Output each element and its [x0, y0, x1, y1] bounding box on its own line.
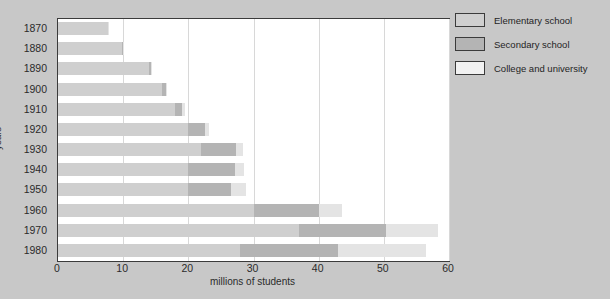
bar-row — [58, 241, 449, 261]
bar-segment-secondary-school — [254, 204, 319, 217]
x-tick-label: 60 — [442, 262, 454, 274]
bar-segment-secondary-school — [188, 163, 234, 176]
stacked-bar — [58, 123, 209, 136]
y-axis-tick-labels: 1870188018901900191019201930194019501960… — [0, 18, 52, 260]
bar-segment-elementary-school — [58, 62, 149, 75]
legend-label: Elementary school — [494, 15, 572, 26]
y-tick-label: 1890 — [24, 58, 47, 78]
stacked-bar — [58, 244, 426, 257]
bar-row — [58, 19, 449, 39]
bar-segment-elementary-school — [58, 224, 299, 237]
bar-row — [58, 201, 449, 221]
y-tick-label: 1870 — [24, 18, 47, 38]
bar-segment-elementary-school — [58, 143, 201, 156]
stacked-bar — [58, 22, 109, 35]
bar-segment-secondary-school — [299, 224, 386, 237]
stacked-bar — [58, 143, 243, 156]
y-tick-label: 1960 — [24, 200, 47, 220]
bar-segment-college-and-university — [319, 204, 342, 217]
bar-row — [58, 39, 449, 59]
x-tick-label: 0 — [54, 262, 60, 274]
bar-segment-elementary-school — [58, 22, 108, 35]
legend-swatch — [455, 37, 485, 51]
y-tick-label: 1910 — [24, 99, 47, 119]
bar-segment-college-and-university — [108, 22, 109, 35]
bar-segment-elementary-school — [58, 244, 240, 257]
bar-segment-secondary-school — [175, 103, 182, 116]
bars-layer — [58, 19, 449, 261]
bar-row — [58, 100, 449, 120]
bar-row — [58, 160, 449, 180]
x-tick-label: 20 — [181, 262, 193, 274]
stacked-bar — [58, 183, 246, 196]
bar-segment-secondary-school — [240, 244, 338, 257]
bar-segment-elementary-school — [58, 183, 188, 196]
y-tick-label: 1900 — [24, 79, 47, 99]
bar-segment-elementary-school — [58, 83, 162, 96]
legend-item[interactable]: Secondary school — [455, 32, 603, 56]
bar-row — [58, 59, 449, 79]
y-tick-label: 1940 — [24, 159, 47, 179]
x-axis-tick-labels: 0102030405060 — [57, 262, 448, 276]
bar-segment-elementary-school — [58, 163, 188, 176]
bar-segment-college-and-university — [205, 123, 209, 136]
y-tick-label: 1950 — [24, 179, 47, 199]
y-tick-label: 1880 — [24, 38, 47, 58]
bar-segment-elementary-school — [58, 123, 188, 136]
bar-row — [58, 120, 449, 140]
y-tick-label: 1970 — [24, 220, 47, 240]
bar-row — [58, 180, 449, 200]
y-tick-label: 1930 — [24, 139, 47, 159]
bar-segment-college-and-university — [151, 62, 152, 75]
x-tick-label: 40 — [312, 262, 324, 274]
bar-segment-college-and-university — [386, 224, 438, 237]
legend-item[interactable]: College and university — [455, 56, 603, 80]
plot-area — [57, 18, 450, 262]
bar-segment-elementary-school — [58, 103, 175, 116]
y-axis-title: years — [0, 127, 3, 150]
bar-segment-college-and-university — [338, 244, 426, 257]
legend-item[interactable]: Elementary school — [455, 8, 603, 32]
stacked-bar — [58, 83, 167, 96]
bar-row — [58, 140, 449, 160]
bar-segment-college-and-university — [236, 143, 243, 156]
stacked-bar — [58, 42, 123, 55]
bar-segment-college-and-university — [182, 103, 184, 116]
y-tick-label: 1980 — [24, 240, 47, 260]
school-enrollment-stacked-bar-chart: School enrollment, 1870-1980 18701880189… — [0, 0, 610, 299]
bar-row — [58, 80, 449, 100]
bar-row — [58, 221, 449, 241]
legend-swatch — [455, 13, 485, 27]
stacked-bar — [58, 224, 438, 237]
y-tick-label: 1920 — [24, 119, 47, 139]
x-axis-title: millions of students — [57, 276, 448, 287]
legend-swatch — [455, 61, 485, 75]
legend: Elementary schoolSecondary schoolCollege… — [455, 8, 603, 80]
stacked-bar — [58, 204, 342, 217]
stacked-bar — [58, 103, 185, 116]
bar-segment-college-and-university — [231, 183, 246, 196]
gridline-60 — [449, 19, 450, 261]
bar-segment-elementary-school — [58, 42, 122, 55]
x-tick-label: 30 — [247, 262, 259, 274]
bar-segment-college-and-university — [166, 83, 168, 96]
bar-segment-college-and-university — [235, 163, 245, 176]
bar-segment-elementary-school — [58, 204, 254, 217]
bar-segment-secondary-school — [201, 143, 236, 156]
bar-segment-secondary-school — [188, 183, 230, 196]
bar-segment-college-and-university — [123, 42, 124, 55]
x-tick-label: 50 — [377, 262, 389, 274]
stacked-bar — [58, 163, 244, 176]
x-tick-label: 10 — [116, 262, 128, 274]
legend-label: Secondary school — [494, 39, 570, 50]
bar-segment-secondary-school — [188, 123, 204, 136]
stacked-bar — [58, 62, 152, 75]
legend-label: College and university — [494, 63, 587, 74]
